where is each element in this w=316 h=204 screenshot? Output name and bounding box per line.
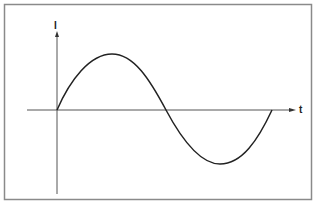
x-axis-label: t xyxy=(299,104,302,115)
diagram-canvas xyxy=(0,0,316,204)
frame-border xyxy=(5,5,312,200)
sine-curve xyxy=(57,54,272,164)
y-axis-label: I xyxy=(54,20,57,31)
x-axis-arrow-icon xyxy=(289,108,296,112)
y-axis-arrow-icon xyxy=(55,31,59,37)
